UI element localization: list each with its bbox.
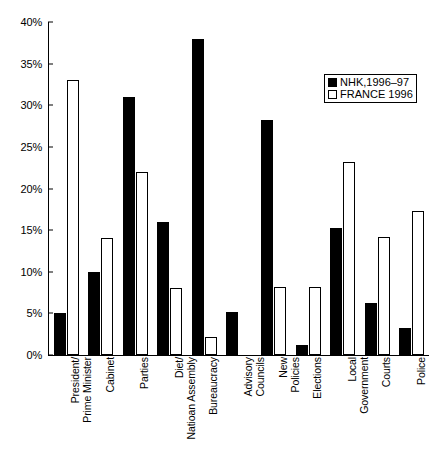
bar [365,303,377,355]
x-axis-label: Cabinet [105,357,117,393]
x-axis-label: Elections [312,357,324,399]
x-axis-label: AdvisoryCouncils [243,357,266,396]
bar [343,162,355,355]
x-axis-label: NewPolicies [278,357,301,392]
x-axis-label-line: Courts [380,357,392,387]
bar [261,120,273,355]
plot-area: 40%35%30%25%20%15%10%5%0% [48,22,428,355]
bar-group [360,22,395,355]
x-axis-label-line: Parties [138,357,150,389]
x-axis-label: Parties [139,357,151,389]
bar [157,222,169,355]
bar-group [291,22,326,355]
bar [378,237,390,355]
y-axis-tick-label: 40% [21,16,48,28]
x-axis-label-line: Diet/ [173,357,185,378]
empty-white-square-icon [328,90,337,99]
y-axis-tick-label: 0% [27,349,49,361]
x-axis-label-line: Policies [289,357,301,392]
legend-item-france: FRANCE 1996 [328,88,413,100]
bar [296,345,308,355]
legend-label-nhk: NHK,1996–97 [340,76,409,88]
x-axis-label-line: Local [346,357,358,382]
bar [101,238,113,355]
y-axis-tick-label: 30% [21,99,48,111]
y-axis-tick-label: 10% [21,266,48,278]
bar [192,39,204,355]
x-axis-label-line: Natioan Assembly [185,357,197,439]
bar-chart: 40%35%30%25%20%15%10%5%0% President/Prim… [0,0,440,457]
y-axis-tick-label: 5% [27,307,49,319]
bar [399,328,411,355]
bar [205,337,217,355]
bar [309,287,321,355]
bar-group [256,22,291,355]
x-axis-label: Police [416,357,428,385]
bar [330,228,342,355]
bar [54,313,66,355]
bar [274,287,286,355]
chart-legend: NHK,1996–97 FRANCE 1996 [324,74,417,103]
bar [170,288,182,355]
x-axis-label-line: Police [415,357,427,385]
x-axis-label: Bureaucracy [208,357,220,415]
bar-group [187,22,222,355]
x-axis-label: LocalGovernment [347,357,370,414]
x-axis-label-line: Government [358,357,370,414]
bar [67,80,79,355]
x-axis-label: Diet/Natioan Assembly [174,357,197,439]
x-axis-label-line: Advisory [242,357,254,396]
bar-group [84,22,119,355]
bar-group [325,22,360,355]
bar-group [394,22,429,355]
x-axis-label-line: Cabinet [104,357,116,393]
bar-group [49,22,84,355]
y-axis-tick-label: 35% [21,58,48,70]
x-axis-label-line: Bureaucracy [207,357,219,415]
x-axis-labels: President/Prime MinisterCabinetPartiesDi… [49,357,429,457]
x-axis-label-line: Prime Minister [82,357,94,423]
x-axis-label-line: Councils [255,357,267,396]
x-axis-label-line: New [277,357,289,378]
x-axis-label: President/Prime Minister [70,357,93,423]
y-axis-tick-label: 15% [21,224,48,236]
bar-groups [49,22,428,355]
bar [226,312,238,355]
y-axis-tick-label: 20% [21,183,48,195]
x-axis-label-line: Elections [311,357,323,399]
x-axis-label: Courts [381,357,393,387]
legend-label-france: FRANCE 1996 [340,88,413,100]
bar [88,272,100,355]
filled-black-square-icon [328,78,337,87]
bar [412,211,424,355]
bar-group [153,22,188,355]
bar-group [222,22,257,355]
bar [136,172,148,355]
bar-group [118,22,153,355]
x-axis-label-line: President/ [69,357,81,403]
y-axis-tick-label: 25% [21,141,48,153]
bar [123,97,135,355]
legend-item-nhk: NHK,1996–97 [328,76,413,88]
